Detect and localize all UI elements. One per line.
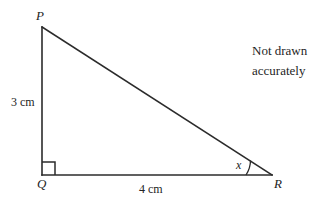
vertex-label-r: R	[274, 177, 282, 190]
angle-label-x: x	[236, 159, 241, 171]
vertex-label-q: Q	[37, 177, 46, 190]
vertex-label-p: P	[36, 9, 44, 22]
diagram-background	[0, 0, 333, 204]
not-drawn-accurately-note: Not drawn accurately	[252, 41, 332, 81]
side-length-label-pq: 3 cm	[11, 96, 35, 108]
triangle-diagram	[0, 0, 333, 204]
note-line-2: accurately	[252, 61, 332, 81]
note-line-1: Not drawn	[252, 41, 332, 61]
side-length-label-qr: 4 cm	[139, 183, 163, 195]
